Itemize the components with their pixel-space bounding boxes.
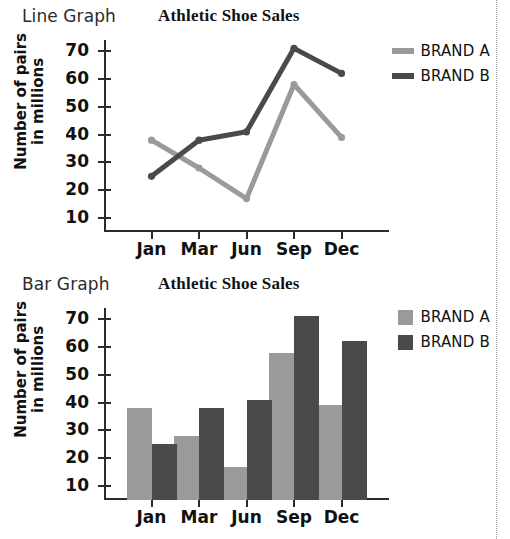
box-swatch-brand-a-icon [398, 310, 413, 325]
legend-item-brand-a: BRAND A [392, 42, 490, 60]
legend-label-brand-a: BRAND A [420, 42, 490, 60]
y-axis-tick: 40 [98, 402, 111, 404]
x-axis-tick-label: Jun [231, 507, 262, 527]
x-axis-tick-label: Sep [276, 507, 312, 527]
y-axis-tick-label: 70 [65, 308, 89, 328]
y-axis-tick-label: 50 [65, 96, 89, 116]
line-graph-title: Athletic Shoe Sales [158, 6, 300, 26]
legend-label-brand-a: BRAND A [420, 308, 490, 326]
y-axis-tick-label: 30 [65, 151, 89, 171]
data-point [338, 134, 345, 141]
box-swatch-brand-b-icon [398, 335, 413, 350]
bar-brand-b [294, 316, 319, 500]
bar-brand-b [247, 400, 272, 500]
x-axis-tick [293, 230, 295, 239]
y-axis-tick: 60 [98, 346, 111, 348]
x-axis-tick [151, 230, 153, 239]
data-point [243, 195, 250, 202]
line-graph-plot-area: 10203040506070JanMarJunSepDec [104, 40, 389, 232]
x-axis-tick-label: Jun [231, 239, 262, 259]
y-axis-label-line2: in millions [30, 284, 47, 454]
data-point [195, 164, 202, 171]
bar-brand-a [127, 408, 152, 500]
y-axis-tick: 70 [98, 50, 111, 52]
bar-brand-b [152, 444, 177, 500]
y-axis-label-line1: Number of pairs [12, 301, 30, 438]
y-axis-tick-label: 40 [65, 124, 89, 144]
y-axis-tick: 20 [98, 189, 111, 191]
y-axis-tick-label: 10 [65, 207, 89, 227]
y-axis-tick-label: 50 [65, 364, 89, 384]
line-graph-figure: Line Graph Athletic Shoe Sales Number of… [0, 0, 496, 268]
bar-brand-b [342, 341, 367, 500]
data-point [148, 137, 155, 144]
page-edge-dotted-rule [496, 0, 497, 539]
data-point [290, 81, 297, 88]
y-axis-label-line1: Number of pairs [12, 33, 30, 170]
line-series-brand-a [152, 85, 342, 199]
bar-graph-plot-area: 10203040506070JanMarJunSepDec [104, 308, 389, 500]
y-axis-tick-label: 70 [65, 40, 89, 60]
bar-graph-y-axis-label: Number of pairs in millions [13, 284, 48, 454]
x-axis-tick [341, 230, 343, 239]
line-graph-legend: BRAND A BRAND B [392, 42, 490, 92]
y-axis-tick: 30 [98, 161, 111, 163]
x-axis-tick-label: Jan [137, 239, 167, 259]
y-axis-tick: 60 [98, 78, 111, 80]
legend-label-brand-b: BRAND B [420, 333, 490, 351]
y-axis-tick: 10 [98, 485, 111, 487]
line-series-brand-b [152, 48, 342, 176]
y-axis-tick-label: 60 [65, 336, 89, 356]
legend-item-brand-b: BRAND B [392, 67, 490, 85]
y-axis-tick: 50 [98, 374, 111, 376]
data-point [243, 128, 250, 135]
y-axis-label-line2: in millions [30, 16, 47, 186]
bar-brand-a [174, 436, 199, 500]
y-axis-tick-label: 10 [65, 475, 89, 495]
line-graph-series-layer [104, 40, 389, 232]
x-axis-tick-label: Dec [324, 239, 360, 259]
line-graph-y-axis-label: Number of pairs in millions [13, 16, 48, 186]
data-point [195, 137, 202, 144]
bar-graph-title: Athletic Shoe Sales [158, 274, 300, 294]
y-axis-tick-label: 60 [65, 68, 89, 88]
x-axis-tick-label: Jan [137, 507, 167, 527]
x-axis-tick-label: Dec [324, 507, 360, 527]
y-axis-tick: 30 [98, 429, 111, 431]
x-axis-tick-label: Sep [276, 239, 312, 259]
x-axis-tick [198, 230, 200, 239]
y-axis-tick-label: 20 [65, 447, 89, 467]
y-axis-tick: 70 [98, 318, 111, 320]
y-axis-tick-label: 20 [65, 179, 89, 199]
x-axis-tick [246, 230, 248, 239]
y-axis-tick-label: 30 [65, 419, 89, 439]
y-axis-tick: 20 [98, 457, 111, 459]
x-axis-tick-label: Mar [181, 507, 218, 527]
bar-graph-y-axis [104, 308, 106, 500]
bar-graph-figure: Bar Graph Athletic Shoe Sales Number of … [0, 268, 496, 539]
bar-brand-a [269, 353, 294, 500]
legend-item-brand-b: BRAND B [398, 333, 490, 351]
line-swatch-brand-b-icon [392, 73, 414, 79]
data-point [338, 70, 345, 77]
y-axis-tick-label: 40 [65, 392, 89, 412]
y-axis-tick: 40 [98, 134, 111, 136]
bar-brand-a [222, 467, 247, 500]
line-swatch-brand-a-icon [392, 48, 414, 54]
y-axis-tick: 50 [98, 106, 111, 108]
legend-label-brand-b: BRAND B [420, 67, 490, 85]
bar-graph-legend: BRAND A BRAND B [398, 308, 490, 358]
y-axis-tick: 10 [98, 217, 111, 219]
legend-item-brand-a: BRAND A [398, 308, 490, 326]
bar-brand-b [199, 408, 224, 500]
worksheet-page: Line Graph Athletic Shoe Sales Number of… [0, 0, 510, 539]
data-point [148, 173, 155, 180]
data-point [290, 45, 297, 52]
x-axis-tick-label: Mar [181, 239, 218, 259]
bar-brand-a [317, 405, 342, 500]
